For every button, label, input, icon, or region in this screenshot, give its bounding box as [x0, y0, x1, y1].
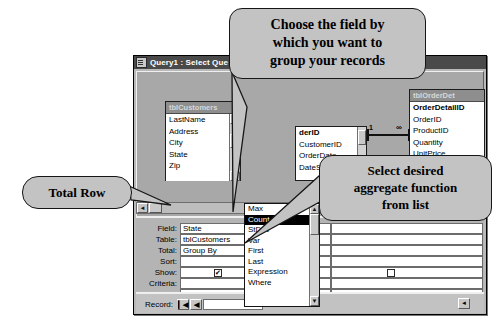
field-list-tblcustomers[interactable]: tblCustomers LastName Address City State… — [165, 101, 241, 181]
scroll-thumb[interactable] — [358, 130, 366, 145]
row-label-total: Total: — [136, 245, 180, 256]
grid-row-labels: Field: Table: Total: Sort: Show: Criteri… — [136, 223, 180, 300]
callout-line: Total Row — [28, 185, 126, 200]
callout-line: which you want to — [236, 34, 419, 52]
scroll-thumb[interactable] — [230, 134, 240, 148]
row-label-sort: Sort: — [136, 256, 180, 267]
datasheet-scroll-left-icon[interactable]: ◄ — [458, 298, 470, 309]
dropdown-option-var[interactable]: Var — [245, 236, 319, 247]
scroll-thumb[interactable] — [310, 214, 319, 235]
field-list-scrollbar[interactable]: ▲ ▼ — [229, 114, 240, 181]
join-endpoint-right — [408, 129, 410, 141]
join-many-label: ∞ — [396, 124, 402, 131]
field-item[interactable]: ProductID — [410, 125, 484, 137]
join-line[interactable] — [367, 134, 410, 136]
previous-record-button[interactable]: ◀ — [190, 299, 202, 310]
field-item[interactable]: Quantity — [410, 137, 484, 149]
aggregate-dropdown-list[interactable]: Max Count StDev Var First Last Expressio… — [244, 203, 320, 307]
record-label: Record: — [145, 300, 173, 309]
row-label-show: Show: — [136, 267, 180, 278]
callout-line: from list — [325, 196, 486, 213]
dropdown-option-count[interactable]: Count — [245, 215, 319, 226]
field-item[interactable]: OrderID — [410, 114, 484, 126]
join-one-label: 1 — [369, 124, 373, 131]
scroll-thumb[interactable] — [149, 203, 162, 213]
grid-cell-criteria-3[interactable] — [331, 278, 483, 289]
row-label-table: Table: — [136, 234, 180, 245]
show-checkbox-1[interactable]: ✔ — [214, 269, 222, 277]
callout-line: group your records — [236, 52, 419, 70]
query-window-icon — [136, 57, 147, 68]
scroll-track[interactable] — [310, 214, 319, 296]
group-field-callout: Choose the field by which you want to gr… — [229, 8, 426, 79]
grid-cell-show-3[interactable] — [331, 267, 483, 278]
grid-cell-total-3[interactable] — [331, 245, 483, 256]
grid-cell-table-3[interactable] — [331, 234, 483, 245]
callout-line: Select desired — [325, 162, 486, 179]
scroll-track[interactable] — [230, 124, 240, 171]
field-item[interactable]: CustomerID — [296, 139, 366, 151]
row-label-criteria: Criteria: — [136, 278, 180, 289]
dropdown-option-stdev[interactable]: StDev — [245, 225, 319, 236]
dropdown-option-first[interactable]: First — [245, 246, 319, 257]
field-item-pk[interactable]: derID — [296, 127, 366, 139]
field-list-title: tblCustomers — [166, 102, 240, 114]
join-endpoint-left — [367, 129, 369, 141]
grid-columns: State tblCustomers Group By ✔ OrderID tb… — [180, 223, 484, 293]
dropdown-scrollbar[interactable]: ▲ ▼ — [309, 204, 319, 306]
callout-line: aggregate function — [325, 179, 486, 196]
total-row-callout: Total Row — [22, 176, 132, 209]
row-label-field: Field: — [136, 223, 180, 234]
grid-cell-sort-3[interactable] — [331, 256, 483, 267]
dropdown-option-max[interactable]: Max — [245, 204, 319, 215]
scroll-up-icon[interactable]: ▲ — [230, 114, 240, 124]
scroll-down-icon[interactable]: ▼ — [230, 171, 240, 181]
show-checkbox-3[interactable] — [387, 269, 395, 277]
window-title: Query1 : Select Que — [150, 58, 228, 67]
screenshot-root: Query1 : Select Que tblCustomers LastNam… — [0, 0, 501, 324]
first-record-button[interactable]: ▎◀ — [177, 299, 189, 310]
scroll-up-icon[interactable]: ▲ — [310, 204, 319, 214]
dropdown-option-where[interactable]: Where — [245, 278, 319, 289]
scroll-left-icon[interactable]: ◄ — [137, 203, 148, 213]
dropdown-option-last[interactable]: Last — [245, 257, 319, 268]
grid-cell-field-3[interactable] — [331, 223, 483, 234]
dropdown-option-expression[interactable]: Expression — [245, 267, 319, 278]
scroll-down-icon[interactable]: ▼ — [310, 296, 319, 306]
callout-line: Choose the field by — [236, 16, 419, 34]
field-list-title: tblOrderDet — [410, 90, 484, 102]
aggregate-callout: Select desired aggregate function from l… — [319, 155, 492, 221]
field-item-pk[interactable]: OrderDetailID — [410, 102, 484, 114]
